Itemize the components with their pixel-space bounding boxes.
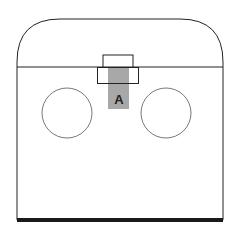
latch-top-rect bbox=[103, 55, 133, 67]
housing-outline bbox=[17, 19, 223, 220]
base-bar bbox=[17, 218, 223, 222]
region-label-a: A bbox=[114, 92, 124, 107]
diagram-canvas: A bbox=[0, 0, 239, 234]
